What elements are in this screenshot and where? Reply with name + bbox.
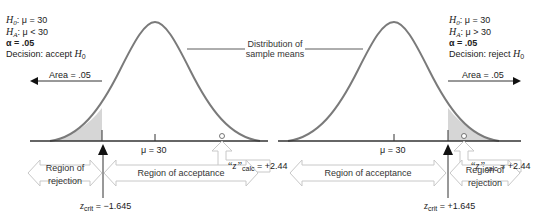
- left-z-calc-marker: [220, 134, 225, 139]
- left-decision: Decision: accept H0: [6, 48, 86, 60]
- left-area-arrowhead-icon: [30, 77, 38, 85]
- distribution-label-line2: sample means: [246, 49, 305, 59]
- right-z-crit-label: zcrit = +1.645: [423, 200, 475, 212]
- left-region-rejection-line1: Region of: [46, 163, 85, 173]
- right-region-rejection-line2: rejection: [468, 178, 502, 188]
- left-mu-label: μ = 30: [141, 145, 166, 155]
- distribution-label-line1: Distribution of: [247, 39, 303, 49]
- left-crit-arrowhead-icon: [98, 144, 108, 155]
- left-area-label: Area = .05: [49, 70, 91, 80]
- right-crit-arrowhead-icon: [443, 144, 453, 155]
- right-alpha: α = .05: [449, 38, 477, 48]
- right-decision: Decision: reject H0: [449, 48, 524, 60]
- left-z-crit-label: zcrit = −1.645: [79, 200, 131, 212]
- left-region-rejection-line2: rejection: [48, 176, 82, 186]
- left-alpha: α = .05: [6, 38, 34, 48]
- hypothesis-test-diagram: H0: μ = 30 HA: μ < 30 α = .05 Decision: …: [0, 0, 551, 219]
- left-z-calc-label: “z”calc = +2.44: [227, 160, 288, 172]
- right-area-label: Area = .05: [462, 70, 504, 80]
- right-region-acceptance: Region of acceptance: [324, 168, 411, 178]
- right-z-calc-marker: [462, 134, 467, 139]
- left-region-acceptance: Region of acceptance: [137, 168, 224, 178]
- right-mu-label: μ = 30: [380, 145, 405, 155]
- right-region-rejection-line1: Region of: [466, 165, 505, 175]
- right-area-arrowhead-icon: [513, 77, 521, 85]
